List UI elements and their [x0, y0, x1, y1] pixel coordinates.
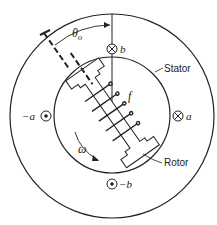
rotor-axis	[40, 30, 70, 70]
label-omega: ω	[78, 142, 86, 156]
machine-diagram: θo b −b a −a	[0, 0, 217, 225]
label-rotor: Rotor	[164, 157, 189, 168]
label-neg-a: −a	[22, 110, 35, 122]
conductor-neg-a-dot-icon	[41, 111, 51, 121]
label-b: b	[120, 43, 126, 55]
stator-leader	[155, 68, 163, 72]
theta-arc	[55, 22, 110, 45]
label-field: f	[128, 89, 133, 103]
label-stator: Stator	[164, 63, 191, 74]
conductor-b-cross-icon	[107, 44, 117, 54]
conductor-a-cross-icon	[173, 111, 183, 121]
label-neg-b: −b	[119, 178, 132, 190]
label-a: a	[186, 110, 192, 122]
theta-label: θo	[72, 26, 82, 42]
rotor-body	[54, 42, 159, 168]
conductor-neg-b-dot-icon	[107, 179, 117, 189]
